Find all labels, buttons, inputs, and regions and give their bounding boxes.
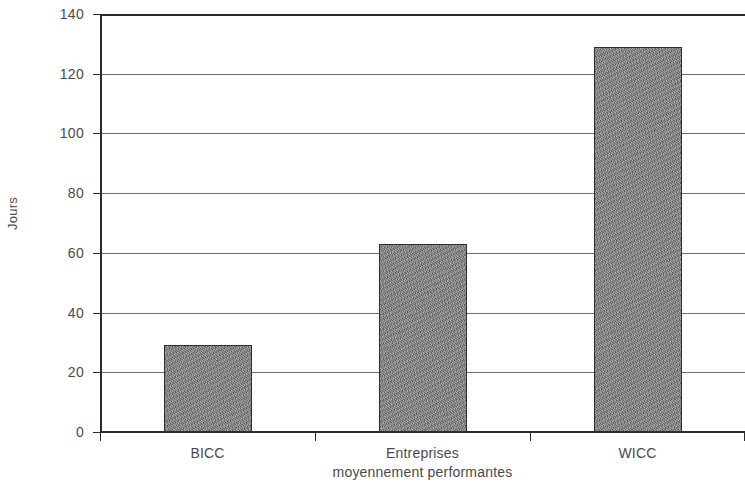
y-axis-tick-label: 60 xyxy=(22,245,84,261)
plot-top-border xyxy=(100,14,745,16)
y-axis-tick-mark xyxy=(93,133,102,134)
y-axis-title: Jours xyxy=(5,184,20,244)
y-axis-tick-label: 140 xyxy=(22,6,84,22)
y-axis-tick-mark xyxy=(93,193,102,194)
y-axis-tick-labels: 020406080100120140 xyxy=(22,0,84,486)
y-axis-tick-mark xyxy=(93,14,102,15)
y-axis-tick-mark xyxy=(93,372,102,373)
y-axis-tick-mark xyxy=(93,74,102,75)
x-axis-category-label-line: WICC xyxy=(618,444,656,463)
x-axis-category-label: WICC xyxy=(618,444,656,463)
y-axis-tick-label: 100 xyxy=(22,125,84,141)
y-axis-tick-label: 20 xyxy=(22,364,84,380)
y-axis-tick-mark xyxy=(93,253,102,254)
x-axis-category-label-line: Entreprises xyxy=(333,444,513,463)
y-axis-tick-mark xyxy=(93,313,102,314)
y-axis-tick-label: 0 xyxy=(22,424,84,440)
plot-area xyxy=(100,14,745,432)
x-axis-category-label-line: moyennement performantes xyxy=(333,463,513,482)
y-axis-line xyxy=(100,14,102,433)
x-axis-tick-mark xyxy=(100,432,101,441)
y-axis-tick-label: 120 xyxy=(22,66,84,82)
x-axis-category-label: BICC xyxy=(190,444,224,463)
x-axis-tick-mark xyxy=(530,432,531,441)
y-axis-tick-label: 80 xyxy=(22,185,84,201)
bar xyxy=(164,345,252,432)
x-axis-category-label-line: BICC xyxy=(190,444,224,463)
x-axis-category-labels: BICCEntreprisesmoyennement performantesW… xyxy=(100,444,745,486)
x-axis-tick-mark xyxy=(315,432,316,441)
x-axis-category-label: Entreprisesmoyennement performantes xyxy=(333,444,513,482)
y-axis-tick-label: 40 xyxy=(22,305,84,321)
bar xyxy=(594,47,682,432)
bar xyxy=(379,244,467,432)
bar-chart: Jours 020406080100120140 BICCEntreprises… xyxy=(0,0,745,486)
